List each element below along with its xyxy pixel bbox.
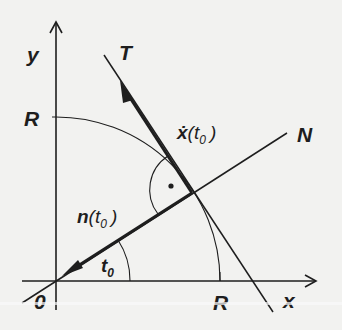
right-angle-arc (150, 156, 168, 214)
tangent-label: T (119, 42, 132, 63)
scan-stripe (0, 302, 342, 305)
angle-sub: 0 (107, 266, 114, 280)
y-axis-label: y (27, 44, 39, 65)
angle-arc-t0 (118, 240, 130, 281)
velocity-vector-label: ẋ(t0) (177, 123, 216, 142)
velocity-vector-arrowhead (120, 80, 133, 103)
diagram-canvas: y x 0 R R T N ẋ(t0) n(t0) t0 (0, 0, 342, 330)
diagram-graphics (0, 0, 342, 330)
velocity-sub: 0 (199, 133, 206, 147)
angle-label: t0 (101, 256, 114, 275)
right-angle-dot (168, 183, 173, 188)
normal-vector-arrowhead (62, 260, 83, 276)
velocity-close-paren: ) (210, 122, 216, 143)
normal-label: N (297, 124, 312, 145)
normal-sub: 0 (100, 217, 107, 231)
velocity-symbol: ẋ (177, 122, 188, 143)
x-axis-label: x (283, 290, 295, 311)
radius-label-y: R (24, 108, 39, 129)
normal-vector (70, 193, 192, 271)
normal-vector-label: n(t0) (77, 207, 117, 226)
normal-symbol: n (77, 206, 89, 227)
normal-close-paren: ) (111, 206, 117, 227)
